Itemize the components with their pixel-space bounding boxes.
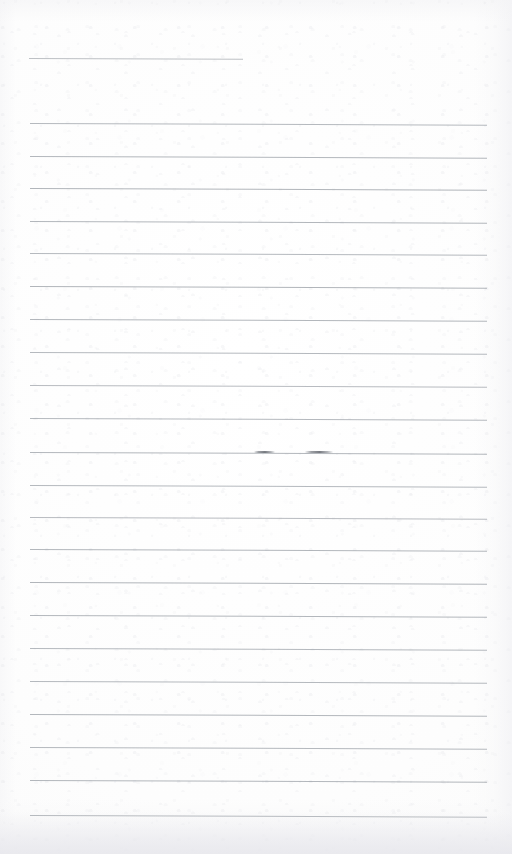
ink-smudge-left — [254, 451, 275, 453]
paper-background — [0, 0, 512, 854]
ink-smudge-right — [305, 451, 333, 453]
scanned-page — [0, 0, 512, 854]
